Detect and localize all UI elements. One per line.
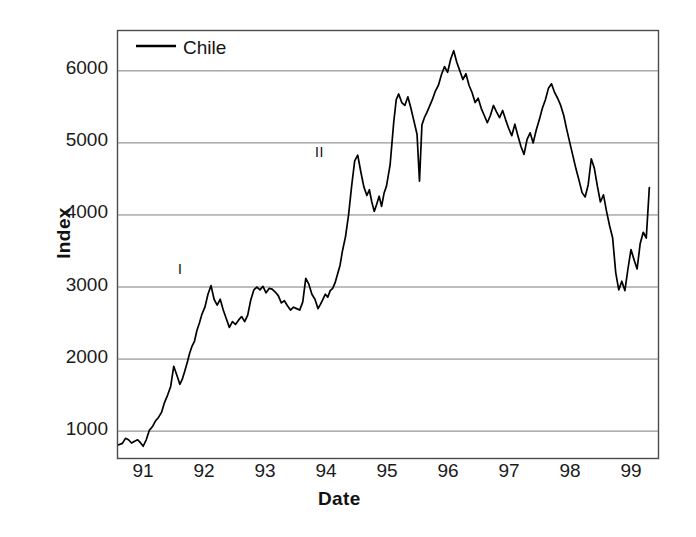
x-axis-title: Date [318,488,361,510]
x-tick-label-93: 93 [240,461,290,481]
y-tick-label-2000: 2000 [42,347,108,367]
x-tick-label-95: 95 [362,461,412,481]
x-tick-label-99: 99 [606,461,656,481]
annotation-ii: II [315,145,324,159]
y-tick-label-1000: 1000 [42,419,108,439]
legend-entry-label: Chile [183,37,226,59]
y-tick-label-3000: 3000 [42,275,108,295]
x-tick-label-97: 97 [484,461,534,481]
plot-canvas [0,0,696,537]
x-tick-label-98: 98 [545,461,595,481]
plot-frame [118,31,659,459]
y-axis-title: Index [49,183,79,283]
x-tick-label-91: 91 [118,461,168,481]
x-tick-label-96: 96 [423,461,473,481]
y-tick-label-6000: 6000 [42,58,108,78]
x-tick-label-92: 92 [179,461,229,481]
y-tick-label-5000: 5000 [42,130,108,150]
chart-figure: Index Date 6000 5000 4000 3000 2000 1000… [0,0,696,537]
annotation-i: I [178,262,182,276]
y-tick-label-4000: 4000 [42,202,108,222]
x-tick-label-94: 94 [301,461,351,481]
